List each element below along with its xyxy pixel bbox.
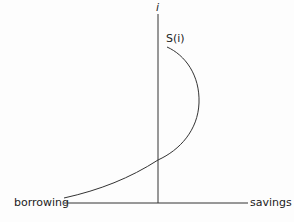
y-axis-label: i <box>156 2 159 14</box>
diagram-canvas <box>0 0 294 222</box>
savings-curve <box>64 47 199 198</box>
x-axis-right-label: savings <box>250 197 292 209</box>
curve-label: S(i) <box>166 33 185 45</box>
x-axis-left-label: borrowing <box>14 197 69 209</box>
savings-function-diagram: i S(i) borrowing savings <box>0 0 294 222</box>
